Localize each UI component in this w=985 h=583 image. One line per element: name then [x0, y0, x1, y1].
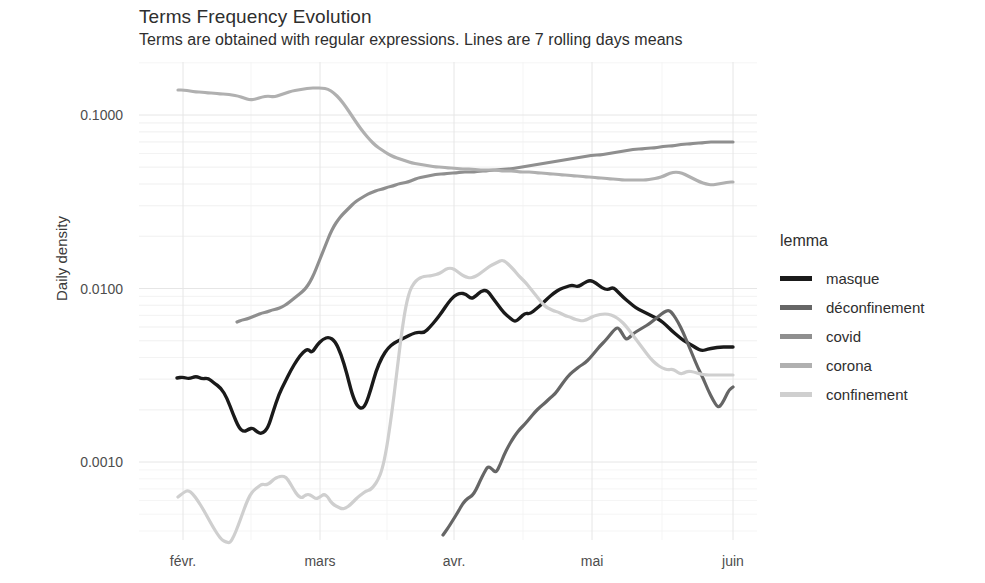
chart-subtitle: Terms are obtained with regular expressi…	[139, 31, 683, 49]
x-axis-tick-label: avr.	[443, 553, 466, 569]
legend-item-label: covid	[826, 328, 861, 345]
chart-title: Terms Frequency Evolution	[139, 6, 372, 28]
y-axis-tick-label: 0.0010	[80, 454, 123, 470]
y-axis-tick-label: 0.1000	[80, 107, 123, 123]
legend-item-label: masque	[826, 270, 879, 287]
chart-plot-area: 0.10000.01000.0010févr.marsavr.maijuin	[0, 0, 985, 583]
x-axis-tick-label: mai	[581, 553, 604, 569]
legend-key-icon	[780, 334, 812, 339]
x-axis-tick-label: févr.	[170, 553, 196, 569]
series-line-déconfinement	[443, 311, 733, 535]
y-axis-tick-label: 0.0100	[80, 281, 123, 297]
y-axis-label: Daily density	[53, 189, 70, 329]
x-axis-tick-label: juin	[721, 553, 744, 569]
legend-item-confinement[interactable]: confinement	[780, 381, 908, 407]
legend-item-label: corona	[826, 357, 872, 374]
legend-item-masque[interactable]: masque	[780, 265, 879, 291]
legend-item-déconfinement[interactable]: déconfinement	[780, 294, 924, 320]
chart-page: Terms Frequency Evolution Terms are obta…	[0, 0, 985, 583]
legend-title: lemma	[780, 232, 828, 250]
legend-key-icon	[780, 392, 812, 397]
series-line-corona	[178, 88, 733, 185]
legend-item-covid[interactable]: covid	[780, 323, 861, 349]
legend-item-label: confinement	[826, 386, 908, 403]
legend-key-icon	[780, 363, 812, 368]
x-axis-tick-label: mars	[304, 553, 335, 569]
legend-key-icon	[780, 276, 812, 281]
legend-key-icon	[780, 305, 812, 310]
legend-item-label: déconfinement	[826, 299, 924, 316]
legend-item-corona[interactable]: corona	[780, 352, 872, 378]
